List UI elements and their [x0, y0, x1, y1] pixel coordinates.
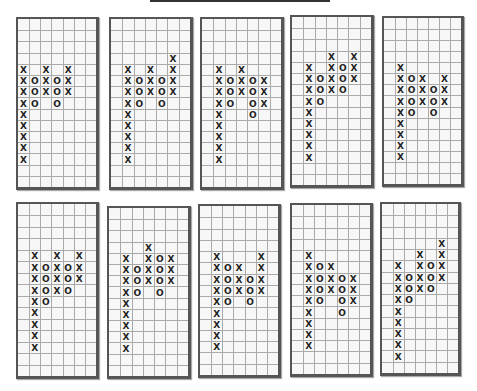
x-mark: X: [258, 252, 265, 262]
o-mark: O: [158, 76, 166, 86]
o-mark: O: [42, 263, 50, 273]
x-mark: X: [419, 97, 426, 107]
x-mark: X: [122, 310, 129, 320]
x-mark: X: [238, 87, 245, 97]
x-mark: X: [441, 74, 448, 84]
x-mark: X: [215, 121, 222, 131]
pnf-chart-3: XXXXXXXXXOOOXXXOOOOXXX: [200, 17, 284, 190]
o-mark: O: [156, 276, 164, 286]
x-mark: X: [351, 63, 358, 73]
o-mark: O: [316, 285, 324, 295]
x-mark: X: [170, 54, 177, 64]
pnf-grid: XXXXXXXXXOOOXXXXOOOXXXX: [382, 204, 458, 373]
x-mark: X: [124, 143, 131, 153]
x-mark: X: [65, 76, 72, 86]
o-mark: O: [249, 99, 257, 109]
x-mark: X: [124, 65, 131, 75]
o-mark: O: [408, 108, 416, 118]
x-mark: X: [31, 320, 38, 330]
x-mark: X: [305, 119, 312, 129]
x-mark: X: [20, 110, 27, 120]
x-mark: X: [122, 254, 129, 264]
o-mark: O: [246, 286, 254, 296]
x-mark: X: [258, 275, 265, 285]
x-mark: X: [305, 141, 312, 151]
x-mark: X: [305, 285, 312, 295]
o-mark: O: [133, 265, 141, 275]
x-mark: X: [215, 76, 222, 86]
x-mark: X: [213, 320, 220, 330]
pnf-chart-1: XXXXXXXXXOOOXXXOOOXXX: [16, 17, 99, 190]
x-mark: X: [145, 265, 152, 275]
x-mark: X: [20, 143, 27, 153]
x-mark: X: [213, 297, 220, 307]
x-mark: X: [395, 284, 402, 294]
x-mark: X: [31, 331, 38, 341]
x-mark: X: [261, 76, 268, 86]
x-mark: X: [350, 285, 357, 295]
x-mark: X: [170, 65, 177, 75]
x-mark: X: [20, 132, 27, 142]
x-mark: X: [122, 344, 129, 354]
x-mark: X: [305, 130, 312, 140]
o-mark: O: [226, 99, 234, 109]
o-mark: O: [53, 99, 61, 109]
o-mark: O: [224, 275, 232, 285]
x-mark: X: [417, 284, 424, 294]
x-mark: X: [328, 274, 335, 284]
pnf-chart-2: XXXXXXXXXOOOXXXOOOXXXX: [109, 17, 193, 190]
x-mark: X: [145, 254, 152, 264]
x-mark: X: [76, 274, 83, 284]
x-mark: X: [213, 286, 220, 296]
o-mark: O: [156, 254, 164, 264]
x-mark: X: [147, 76, 154, 86]
x-mark: X: [395, 307, 402, 317]
x-mark: X: [20, 99, 27, 109]
o-mark: O: [135, 76, 143, 86]
x-mark: X: [350, 296, 357, 306]
x-mark: X: [168, 276, 175, 286]
x-mark: X: [395, 261, 402, 271]
x-mark: X: [31, 308, 38, 318]
x-mark: X: [438, 273, 445, 283]
x-mark: X: [170, 76, 177, 86]
o-mark: O: [408, 74, 416, 84]
x-mark: X: [397, 85, 404, 95]
x-mark: X: [124, 99, 131, 109]
x-mark: X: [397, 141, 404, 151]
x-mark: X: [328, 74, 335, 84]
pnf-chart-8: XXXXXXXXXOOOOXXXOOOXXXX: [198, 204, 281, 378]
x-mark: X: [351, 74, 358, 84]
x-mark: X: [54, 286, 61, 296]
x-mark: X: [305, 153, 312, 163]
x-mark: X: [20, 76, 27, 86]
x-mark: X: [147, 87, 154, 97]
o-mark: O: [316, 85, 324, 95]
x-mark: X: [261, 87, 268, 97]
x-mark: X: [124, 87, 131, 97]
x-mark: X: [54, 263, 61, 273]
o-mark: O: [31, 76, 39, 86]
o-mark: O: [316, 74, 324, 84]
o-mark: O: [156, 288, 164, 298]
x-mark: X: [31, 274, 38, 284]
x-mark: X: [236, 263, 243, 273]
header-rule: [150, 0, 330, 2]
x-mark: X: [351, 52, 358, 62]
o-mark: O: [427, 261, 435, 271]
o-mark: O: [408, 85, 416, 95]
x-mark: X: [215, 65, 222, 75]
o-mark: O: [53, 87, 61, 97]
x-mark: X: [236, 275, 243, 285]
x-mark: X: [305, 330, 312, 340]
x-mark: X: [438, 250, 445, 260]
x-mark: X: [213, 331, 220, 341]
o-mark: O: [338, 296, 346, 306]
pnf-chart-10: XXXXXXXXXOOOXXXXOOOXXXX: [380, 202, 461, 376]
x-mark: X: [31, 251, 38, 261]
x-mark: X: [419, 85, 426, 95]
o-mark: O: [316, 296, 324, 306]
o-mark: O: [430, 85, 438, 95]
pnf-chart-5: XXXXXXXXXOOOOXXXOOOXXX: [382, 16, 464, 187]
o-mark: O: [42, 286, 50, 296]
